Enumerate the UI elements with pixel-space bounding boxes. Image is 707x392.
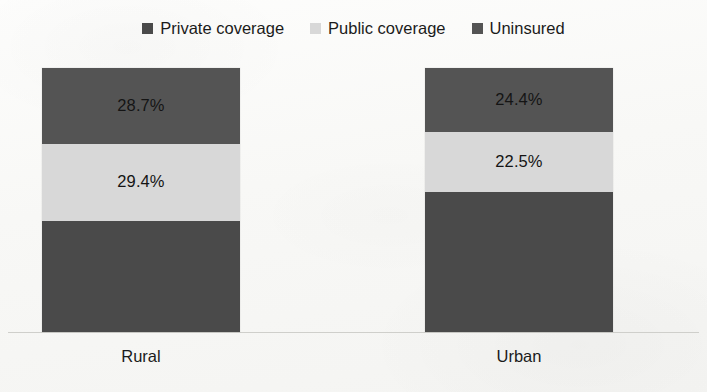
bar-urban-segment-uninsured[interactable]: 24.4% — [425, 68, 613, 132]
bar-rural-label-public: 29.4% — [117, 173, 164, 190]
bar-urban-label-public: 22.5% — [495, 153, 542, 170]
bar-urban[interactable]: 24.4% 22.5% — [425, 68, 613, 332]
bar-urban-segment-public[interactable]: 22.5% — [425, 132, 613, 191]
bar-rural-segment-public[interactable]: 29.4% — [42, 144, 240, 222]
stacked-bar-chart: Private coverage Public coverage Uninsur… — [0, 0, 707, 392]
axis-baseline — [8, 332, 699, 333]
bar-urban-segment-private[interactable] — [425, 192, 613, 332]
category-label-rural: Rural — [42, 348, 240, 365]
plot-area: 28.7% 29.4% 24.4% 22.5% Rural Urban — [0, 0, 707, 392]
bar-rural-segment-private[interactable] — [42, 221, 240, 332]
bar-rural-label-uninsured: 28.7% — [117, 97, 164, 114]
bar-rural-segment-uninsured[interactable]: 28.7% — [42, 68, 240, 144]
bar-rural[interactable]: 28.7% 29.4% — [42, 68, 240, 332]
category-label-urban: Urban — [425, 348, 613, 365]
bar-urban-label-uninsured: 24.4% — [495, 91, 542, 108]
